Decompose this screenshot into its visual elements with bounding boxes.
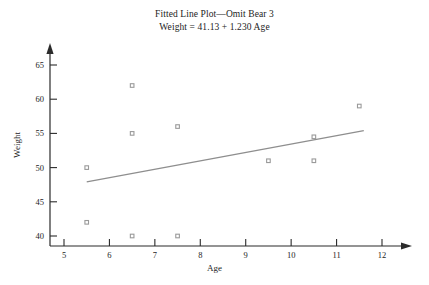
y-tick-label: 55 [36,128,45,138]
scatter-point [312,135,316,139]
y-tick-label: 45 [36,197,45,207]
x-axis-arrow-icon [401,242,412,249]
scatter-point [267,159,271,163]
scatter-point [130,84,134,88]
x-tick-label: 12 [378,250,387,260]
scatter-point [357,104,361,108]
scatter-point [130,234,134,238]
x-tick-label: 6 [107,250,111,260]
y-axis-label: Weight [12,115,22,175]
fit-line-segment [87,131,364,182]
y-axis-ticks: 404550556065 [36,60,58,241]
x-tick-label: 9 [244,250,248,260]
x-tick-label: 7 [153,250,157,260]
x-axis-ticks: 56789101112 [62,239,386,260]
scatter-point [176,234,180,238]
x-tick-label: 11 [332,250,340,260]
fitted-regression-line [87,131,364,182]
y-axis-arrow-icon [46,43,53,54]
y-tick-label: 50 [36,163,45,173]
y-tick-label: 60 [36,94,45,104]
y-tick-label: 40 [36,231,45,241]
fitted-line-plot: Fitted Line Plot—Omit Bear 3 Weight = 41… [0,0,429,285]
x-tick-label: 8 [198,250,202,260]
data-points [85,84,361,238]
scatter-point [85,166,89,170]
x-tick-label: 5 [62,250,66,260]
scatter-point [85,221,89,225]
scatter-point [176,125,180,129]
x-axis-label: Age [0,263,429,273]
scatter-point [312,159,316,163]
x-tick-label: 10 [287,250,296,260]
plot-area: 404550556065 56789101112 [0,0,429,285]
y-tick-label: 65 [36,60,45,70]
scatter-point [130,132,134,136]
axes [46,43,412,250]
